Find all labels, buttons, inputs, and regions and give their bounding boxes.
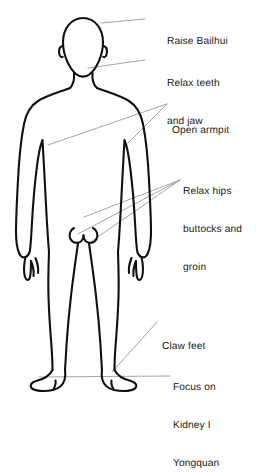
leader-relax-hips-b (78, 180, 180, 234)
leg-right-inner (89, 243, 102, 370)
label-relax-hips-line-3: groin (183, 262, 242, 275)
label-open-armpit-line-1: Open armpit (172, 125, 229, 138)
neck-right (92, 73, 97, 88)
label-kidney-line-2: Kidney I (173, 420, 219, 433)
label-kidney-line-1: Focus on (173, 382, 219, 395)
label-relax-teeth-and-jaw-line-1: Relax teeth (167, 78, 220, 91)
leg-left-inner (65, 243, 78, 370)
label-relax-hips-line-2: buttocks and (183, 224, 242, 237)
leader-open-armpit-left (48, 104, 167, 145)
label-open-armpit: Open armpit (172, 100, 229, 163)
hand-right-outline (136, 257, 143, 280)
label-raise-bailhui-line-1: Raise Bailhui (167, 36, 228, 49)
leader-claw-feet (112, 322, 157, 372)
hand-left-fingers (31, 258, 38, 276)
body-outline-group (16, 18, 151, 391)
hand-left-outline (24, 257, 31, 280)
label-relax-hips-buttocks-and-groin: Relax hips buttocks and groin (183, 161, 242, 300)
torso-and-arms-outline (16, 88, 70, 257)
label-relax-hips-line-1: Relax hips (183, 186, 242, 199)
leg-right-outer (115, 252, 119, 370)
foot-left-outline (31, 370, 66, 391)
label-claw-feet-line-1: Claw feet (162, 341, 205, 354)
hand-right-fingers (129, 258, 136, 276)
neck-left (70, 73, 74, 88)
label-kidney-line-3: Yongquan (173, 458, 219, 471)
ear-left (59, 46, 63, 57)
leader-kidney-yongquan (39, 376, 170, 377)
ear-right (103, 46, 107, 57)
leader-lines-group (39, 19, 180, 377)
label-focus-on-kidney-yongquan: Focus on Kidney I Yongquan (173, 357, 219, 472)
foot-right-outline (102, 370, 137, 391)
leader-raise-bailhui (101, 19, 145, 23)
leg-left-outer (48, 252, 52, 370)
leader-open-armpit-right (128, 104, 167, 143)
head-outline (63, 18, 103, 77)
